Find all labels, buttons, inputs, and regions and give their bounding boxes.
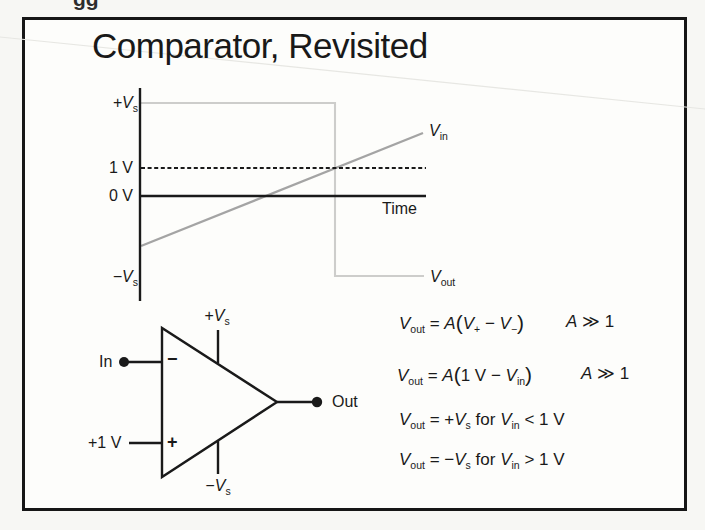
y-axis-label-plus-vs: +Vs [95,94,138,112]
slide-border-frame [22,17,687,511]
equation-gain-general-condition: A ≫ 1 [566,312,614,332]
slide-title: Comparator, Revisited [92,26,428,66]
equation-gain-general: Vout = A(V+ − V−) [399,309,524,334]
cropped-text-fragment: gg [73,0,99,11]
x-axis-label-time: Time [382,200,417,218]
opamp-out-label: Out [332,393,358,411]
opamp-plus-one-volt-label: +1 V [88,434,121,452]
equation-output-high-case: Vout = +Vs for Vin < 1 V [399,410,565,430]
opamp-negative-supply-label: −Vs [197,477,239,495]
inverting-input-sign: − [167,350,178,368]
equation-gain-applied: Vout = A(1 V − Vin) [397,361,532,386]
y-axis-label-1v: 1 V [92,159,133,177]
vin-curve-label: Vin [429,122,448,140]
equation-output-low-case: Vout = −Vs for Vin > 1 V [399,450,565,470]
opamp-in-label: In [99,353,112,371]
y-axis-label-0v: 0 V [92,187,133,205]
y-axis-label-minus-vs: −Vs [95,268,138,286]
noninverting-input-sign: + [167,433,178,451]
equation-gain-applied-condition: A ≫ 1 [581,364,629,384]
opamp-positive-supply-label: +Vs [196,307,238,325]
scanned-slide-page: gg Comparator, Revisited +Vs 1 V 0 V −Vs… [0,0,705,530]
vout-curve-label: Vout [430,268,455,286]
